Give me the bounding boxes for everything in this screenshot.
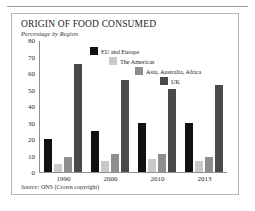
bar [195, 161, 203, 172]
legend-item: EU and Europe [90, 47, 139, 55]
bar-group-1990 [40, 41, 87, 172]
legend-item: The Americas [109, 57, 155, 65]
bar [148, 159, 156, 172]
bar [121, 80, 129, 172]
x-tick-label: 2000 [87, 175, 134, 183]
legend-label: The Americas [120, 58, 155, 65]
y-tick-label: 20 [28, 137, 35, 144]
bar [158, 154, 166, 172]
bar [205, 157, 213, 172]
bar [138, 123, 146, 172]
figure-container: ORIGIN OF FOOD CONSUMED Percentage by Re… [11, 13, 239, 195]
page-top-rule [7, 6, 248, 7]
y-tick-label: 10 [28, 153, 35, 160]
bar [101, 161, 109, 172]
y-tick-label: 60 [28, 71, 35, 78]
x-tick-label: 1990 [40, 175, 87, 183]
bar [74, 64, 82, 172]
y-tick-label: 40 [28, 104, 35, 111]
bar [64, 157, 72, 172]
legend-label: UK [171, 78, 180, 85]
legend-label: EU and Europe [101, 48, 139, 55]
legend-swatch-icon [109, 57, 117, 65]
legend-swatch-icon [90, 47, 98, 55]
legend-swatch-icon [160, 77, 168, 85]
legend-swatch-icon [135, 67, 143, 75]
y-tick-label: 0 [32, 170, 36, 177]
bar [54, 164, 62, 172]
y-tick-label: 30 [28, 120, 35, 127]
y-tick-label: 50 [28, 87, 35, 94]
chart-title: ORIGIN OF FOOD CONSUMED [21, 19, 156, 29]
bar [111, 154, 119, 172]
x-axis-line [39, 172, 227, 173]
y-tick-label: 80 [28, 38, 35, 45]
legend-label: Asia, Australia, Africa [146, 68, 201, 75]
legend-item: UK [160, 77, 180, 85]
bar [215, 85, 223, 172]
bar [91, 131, 99, 172]
bar-group-2013 [180, 41, 227, 172]
source-text: ONS (Crown copyright) [41, 184, 99, 190]
y-tick-label: 70 [28, 54, 35, 61]
source-lead: Source: [21, 184, 39, 190]
x-axis-labels: 1990200020102013 [40, 175, 228, 183]
chart-page: ORIGIN OF FOOD CONSUMED Percentage by Re… [0, 0, 255, 211]
x-tick-label: 2010 [134, 175, 181, 183]
legend-item: Asia, Australia, Africa [135, 67, 201, 75]
x-tick-label: 2013 [181, 175, 228, 183]
bar [185, 123, 193, 172]
source-caption: Source: ONS (Crown copyright) [21, 184, 99, 190]
bar [168, 89, 176, 173]
bar [44, 139, 52, 172]
